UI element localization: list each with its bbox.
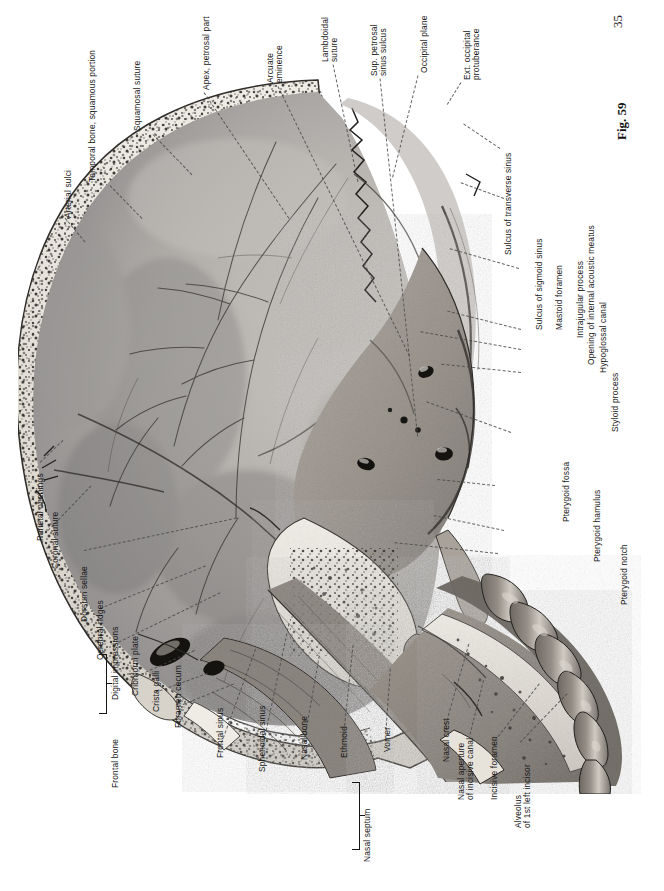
label-dorsum-sellae: Dorsum sellae xyxy=(80,566,90,622)
label-text: Foramen cecum xyxy=(173,665,183,728)
label-text: Pterygoid hamulus xyxy=(592,490,602,562)
label-text-line2: of incisive canal xyxy=(466,738,475,800)
label-digital-impressions: Digital impressions xyxy=(111,626,121,700)
label-frontal-bone: Frontal bone xyxy=(111,739,121,788)
label-pterygoid-hamulus: Pterygoid hamulus xyxy=(593,490,603,562)
label-text-line2: of 1st left incisor xyxy=(523,764,532,828)
label-text: Sphenoidal sinus xyxy=(257,705,267,772)
label-text: Mastoid foramen xyxy=(554,265,564,330)
label-arterial-sulci: Arterial sulci xyxy=(64,170,74,218)
page-number: 35 xyxy=(610,15,626,28)
label-cribriform-plate: Cribriform plate xyxy=(131,636,141,696)
label-text: Styloid process xyxy=(610,373,620,433)
label-coronal-suture: Coronal suture xyxy=(51,512,61,569)
label-text: Nasal bone xyxy=(299,716,309,760)
label-arcuate-eminence: Arcuate eminence xyxy=(266,45,285,83)
label-text: Sulcus of transverse sinus xyxy=(503,153,513,255)
bracket-tick xyxy=(359,815,365,816)
label-sup-petrosal-sinus-sulcus: Sup. petrosal sinus sulcus xyxy=(370,24,389,76)
label-text: Nasal septum xyxy=(362,809,372,862)
label-frontal-sinus: Frontal sinus xyxy=(216,708,226,758)
label-text: Pterygoid fossa xyxy=(561,462,571,522)
label-hypoglossal-canal: Hypoglossal canal xyxy=(599,302,609,373)
label-occipital-plane: Occipital plane xyxy=(420,15,430,73)
label-text: Ethmoid xyxy=(339,726,349,758)
bracket-tick xyxy=(106,683,112,684)
label-ext-occipital-protuberance: Ext. occipital protuberance xyxy=(463,28,482,80)
label-sphenoidal-sinus: Sphenoidal sinus xyxy=(258,705,268,772)
label-cerebral-ridges: Cerebral ridges xyxy=(96,600,106,660)
label-crista-galli: Crista galli xyxy=(152,671,162,712)
label-nasal-bone: Nasal bone xyxy=(300,716,310,760)
label-text-line2: protuberance xyxy=(472,28,481,80)
label-pterygoid-fossa: Pterygoid fossa xyxy=(562,462,572,522)
label-alveolus-of-1st-left-incisor: Alveolus of 1st left incisor xyxy=(514,764,533,828)
label-sulcus-of-sigmoid-sinus: Sulcus of sigmoid sinus xyxy=(535,238,545,330)
label-mastoid-foramen: Mastoid foramen xyxy=(555,265,565,330)
label-text: Pterygoid notch xyxy=(619,544,629,605)
label-text-line2: eminence xyxy=(275,45,284,83)
label-text: Squamosal suture xyxy=(132,61,142,131)
label-ethmoid: Ethmoid xyxy=(340,726,350,758)
label-text: Digital impressions xyxy=(110,626,120,700)
label-incisive-foramen: Incisive foramen xyxy=(490,736,500,800)
label-text: Occipital plane xyxy=(419,15,429,73)
bracket-nasal-septum xyxy=(352,782,360,850)
label-text: Dorsum sellae xyxy=(79,566,89,622)
bracket-frontal-bone xyxy=(99,654,107,714)
label-parietal-openings: Parietal openings xyxy=(36,473,46,541)
label-text: Frontal sinus xyxy=(215,708,225,758)
label-styloid-process: Styloid process xyxy=(611,373,621,433)
label-text: Sulcus of sigmoid sinus xyxy=(534,238,544,330)
label-text: Frontal bone xyxy=(110,739,120,788)
label-text: Coronal suture xyxy=(50,512,60,569)
label-nasal-crest: Nasal crest xyxy=(442,718,452,762)
label-text: Crista galli xyxy=(151,671,161,712)
label-text: Cribriform plate xyxy=(130,636,140,696)
label-intrajugular-process: Intrajugular process xyxy=(576,261,586,338)
label-text: Temporal bone, squamous portion xyxy=(87,50,97,182)
label-text: Cerebral ridges xyxy=(95,600,105,660)
label-lambdoidal-suture: Lambdoidal suture xyxy=(321,17,340,62)
label-text-line2: sinus sulcus xyxy=(379,24,388,76)
figure-number: Fig. 59 xyxy=(614,102,630,140)
label-text-line2: suture xyxy=(330,17,339,62)
label-vomer: Vomer xyxy=(383,727,393,752)
label-text: Vomer xyxy=(382,727,392,752)
label-sulcus-of-transverse-sinus: Sulcus of transverse sinus xyxy=(504,153,514,255)
label-temporal-bone-squamous-portion: Temporal bone, squamous portion xyxy=(88,50,98,182)
label-text: Intrajugular process xyxy=(575,261,585,338)
label-text: Opening of internal acoustic meatus xyxy=(586,225,596,365)
label-pterygoid-notch: Pterygoid notch xyxy=(620,544,630,605)
label-text: Arterial sulci xyxy=(63,170,73,218)
label-squamosal-suture: Squamosal suture xyxy=(133,61,143,131)
label-opening-of-internal-acoustic-meatus: Opening of internal acoustic meatus xyxy=(587,225,597,365)
label-text: Hypoglossal canal xyxy=(598,302,608,373)
figure-number-text: Fig. 59 xyxy=(614,102,629,140)
label-nasal-septum: Nasal septum xyxy=(363,809,373,862)
label-text: Apex, petrosal part xyxy=(201,16,211,90)
label-nasal-aperture-of-incisive-canal: Nasal aperture of incisive canal xyxy=(457,738,476,800)
atlas-page: Arterial sulci Temporal bone, squamous p… xyxy=(0,0,664,891)
label-text: Parietal openings xyxy=(35,473,45,541)
label-foramen-cecum: Foramen cecum xyxy=(174,665,184,728)
page-number-text: 35 xyxy=(610,15,625,28)
label-text: Incisive foramen xyxy=(489,736,499,800)
label-apex-petrosal-part: Apex, petrosal part xyxy=(202,16,212,90)
label-text: Nasal crest xyxy=(441,718,451,762)
